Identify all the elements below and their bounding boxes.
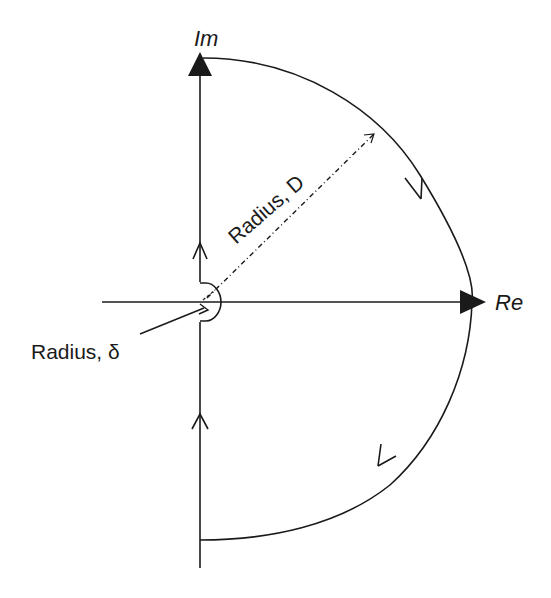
radius-delta-label: Radius, δ bbox=[31, 340, 120, 363]
real-axis bbox=[102, 290, 486, 314]
large-semicircle-contour bbox=[200, 58, 472, 540]
imaginary-axis-label: Im bbox=[194, 26, 218, 51]
imaginary-axis-arrow-icon bbox=[188, 52, 212, 76]
nyquist-contour-diagram: Im Re Radius, D Radius, δ bbox=[0, 0, 551, 598]
radius-d-line bbox=[207, 134, 374, 298]
real-axis-label: Re bbox=[495, 290, 523, 315]
contour-direction-arrow-icon bbox=[405, 178, 422, 199]
radius-d-label: Radius, D bbox=[224, 170, 309, 248]
radius-delta-leader bbox=[140, 308, 204, 334]
contour-direction-arrow-icon bbox=[378, 444, 396, 466]
